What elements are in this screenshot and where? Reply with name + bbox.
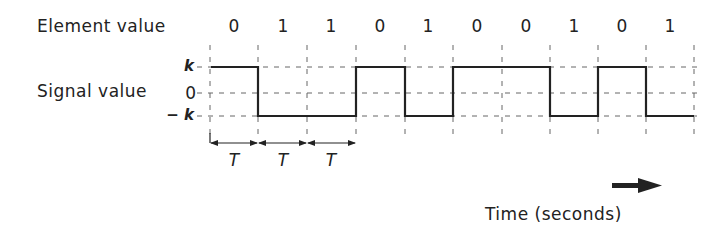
signal-plot — [0, 0, 726, 232]
period-markers — [210, 133, 355, 143]
time-direction-arrow-icon — [612, 178, 662, 193]
signal-waveform — [211, 67, 694, 116]
horizontal-gridlines — [197, 67, 700, 116]
